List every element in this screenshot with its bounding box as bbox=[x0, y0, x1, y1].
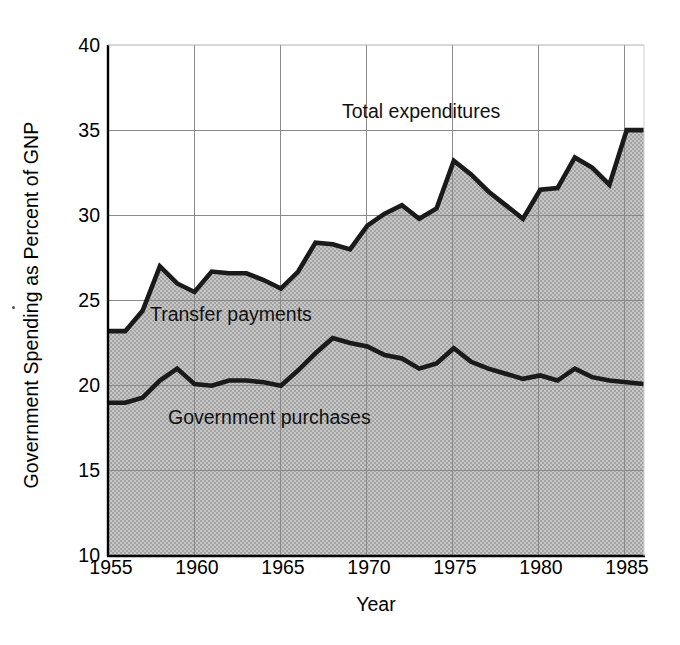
plot-area bbox=[0, 0, 680, 645]
annotation-total-expenditures: Total expenditures bbox=[342, 100, 500, 122]
annotation-government-purchases: Government purchases bbox=[168, 406, 371, 428]
annotation-transfer-payments: Transfer payments bbox=[150, 303, 312, 325]
scan-speck bbox=[12, 306, 15, 309]
chart-figure: Government Spending as Percent of GNP 40… bbox=[0, 0, 680, 645]
